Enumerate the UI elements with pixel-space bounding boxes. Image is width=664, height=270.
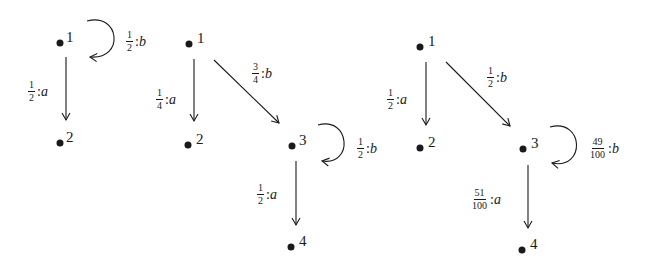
node-dot — [289, 143, 296, 150]
edge-label-1-2: 12:a — [28, 80, 48, 103]
node-label: 2 — [428, 135, 436, 150]
node-dot — [186, 41, 193, 48]
edge-label-1-3: 34:b — [252, 62, 272, 85]
node-label: 1 — [66, 30, 74, 45]
node-dot — [520, 146, 527, 153]
edge-label-1-2: 12:a — [387, 88, 407, 111]
node-dot — [288, 244, 295, 251]
node-label: 3 — [299, 133, 307, 148]
edge-label-3-4: 51100:a — [471, 188, 501, 211]
node-dot — [417, 44, 424, 51]
edge-label-loop-1: 12:b — [126, 30, 146, 53]
node-label: 1 — [197, 31, 205, 46]
self-loop-3 — [550, 126, 577, 164]
edge-label-1-3: 12:b — [487, 66, 507, 89]
edge-label-loop-3: 49100:b — [589, 137, 619, 160]
node-label: 2 — [66, 130, 74, 145]
edge-label-1-2: 14:a — [156, 88, 176, 111]
node-dot — [57, 140, 64, 147]
node-dot — [417, 145, 424, 152]
node-label: 4 — [530, 237, 538, 252]
edge-label-3-4: 12:a — [257, 183, 277, 206]
diagram-canvas — [0, 0, 664, 270]
node-dot — [519, 247, 526, 254]
self-loop-1 — [87, 20, 114, 57]
node-label: 1 — [428, 34, 436, 49]
node-label: 3 — [531, 136, 539, 151]
node-label: 4 — [299, 234, 307, 249]
self-loop-3 — [318, 124, 344, 161]
node-dot — [57, 40, 64, 47]
edge-label-loop-3: 12:b — [357, 137, 377, 160]
node-label: 2 — [196, 132, 204, 147]
node-dot — [185, 142, 192, 149]
